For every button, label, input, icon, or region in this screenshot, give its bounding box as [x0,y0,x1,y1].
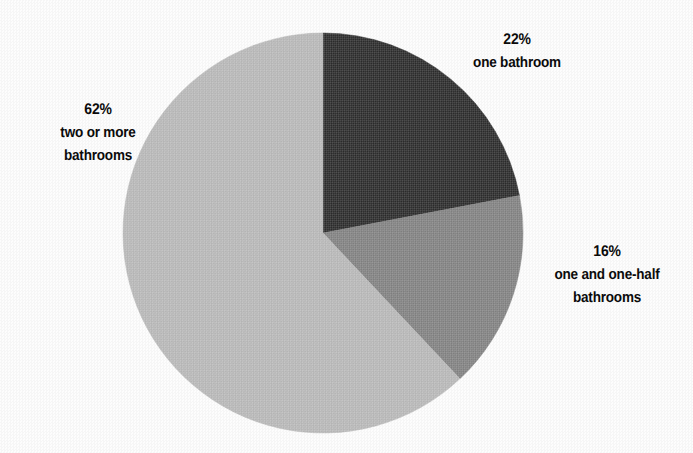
pie-slices [123,33,523,433]
chart-canvas: 22% one bathroom 16% one and one-half ba… [0,0,693,453]
slice-caption-one-and-one-half-line2: bathrooms [530,286,685,309]
slice-label-two-or-more-bathrooms: 62% two or more bathrooms [17,98,179,167]
slice-caption-one-bathroom-line1: one bathroom [436,51,598,74]
slice-caption-two-or-more-line1: two or more [17,121,179,144]
slice-caption-one-and-one-half-line1: one and one-half [530,263,685,286]
slice-percent-one-and-one-half: 16% [530,240,685,263]
slice-percent-one-bathroom: 22% [436,28,598,51]
slice-label-one-bathroom: 22% one bathroom [436,28,598,74]
slice-caption-two-or-more-line2: bathrooms [17,144,179,167]
slice-percent-two-or-more: 62% [17,98,179,121]
slice-label-one-and-one-half-bathrooms: 16% one and one-half bathrooms [530,240,685,309]
